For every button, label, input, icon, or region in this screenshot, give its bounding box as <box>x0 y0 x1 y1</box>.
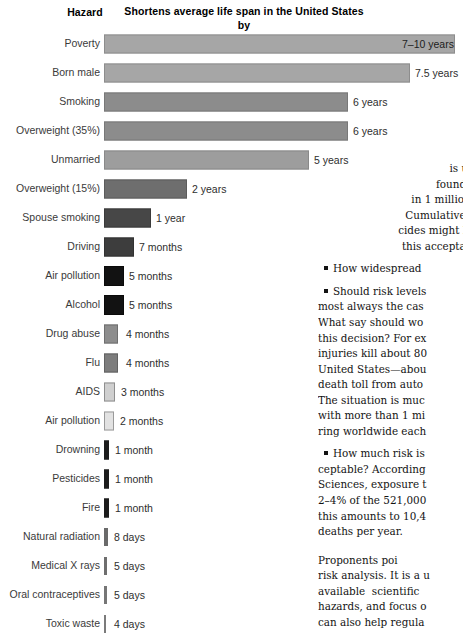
body-text-line: cides might kill 40, c <box>318 223 463 239</box>
body-text-line: is usually c <box>318 161 463 177</box>
bar <box>104 180 187 199</box>
value-label: 7 months <box>139 241 182 253</box>
bar <box>104 528 108 546</box>
value-label: 1 month <box>115 502 153 514</box>
bar <box>104 266 124 286</box>
body-text-line: can also help regula <box>318 615 463 631</box>
category-label: Air pollution <box>0 415 104 427</box>
bar-track: 7.5 years <box>104 62 463 84</box>
body-text-line: should <box>318 146 463 162</box>
bar <box>104 586 107 604</box>
value-label: 4 months <box>126 328 169 340</box>
bar <box>104 209 151 228</box>
category-label: Smoking <box>0 96 104 108</box>
value-label: 7–10 years <box>402 38 454 50</box>
bar <box>104 615 106 633</box>
bar <box>104 557 107 575</box>
category-label: Alcohol <box>0 299 104 311</box>
body-text-line: risk analysis. It is a u <box>318 568 463 584</box>
bar <box>104 151 309 170</box>
category-label: Overweight (35%) <box>0 125 104 137</box>
category-label: Poverty <box>0 38 104 50</box>
category-label: Spouse smoking <box>0 212 104 224</box>
body-text-line: this decision? For ex <box>318 331 463 347</box>
category-label: AIDS <box>0 386 104 398</box>
body-text-line: 2–4% of the 521,000 <box>318 493 463 509</box>
bar-track: 6 years <box>104 91 463 113</box>
category-label: Driving <box>0 241 104 253</box>
figure-page: Hazard Shortens average life span in the… <box>0 0 463 635</box>
bar-track: 7–10 years <box>104 33 463 55</box>
value-label: 8 days <box>114 531 145 543</box>
body-text-line: injuries kill about 80 <box>318 346 463 362</box>
category-label: Natural radiation <box>0 531 104 543</box>
value-label: 5 days <box>114 589 145 601</box>
body-text-bullet: How widespread <box>318 261 463 277</box>
value-label: 7.5 years <box>415 67 458 79</box>
category-label: Pesticides <box>0 473 104 485</box>
value-label: 4 days <box>114 618 145 630</box>
bar <box>104 354 118 373</box>
body-text-line: What say should wo <box>318 315 463 331</box>
value-label: 6 years <box>353 96 387 108</box>
body-text-line: hazards, and focus o <box>318 599 463 615</box>
body-text-line: most always the cas <box>318 299 463 315</box>
body-text-line: ceptable? According <box>318 462 463 478</box>
bar <box>104 295 124 315</box>
body-text-bullet: Should risk levels <box>318 284 463 300</box>
body-text-line: The situation is muc <box>318 393 463 409</box>
body-text-line: available scientific <box>318 584 463 600</box>
bar <box>104 499 109 518</box>
chart-row: Smoking6 years <box>0 91 463 113</box>
body-text-line: Sciences, exposure t <box>318 477 463 493</box>
body-text-line: Proponents poi <box>318 553 463 569</box>
body-text-line: death toll from auto <box>318 377 463 393</box>
bullet-square-icon <box>324 289 328 293</box>
category-label: Overweight (15%) <box>0 183 104 195</box>
bar <box>104 238 134 257</box>
body-text-line: United States—abou <box>318 362 463 378</box>
body-text-line: in 1 million from c <box>318 192 463 208</box>
bar <box>104 325 118 344</box>
body-text-line: ring worldwide each <box>318 424 463 440</box>
chart-row: Born male7.5 years <box>0 62 463 84</box>
bullet-square-icon <box>324 451 328 455</box>
value-label: 5 months <box>129 270 172 282</box>
value-label: 2 years <box>192 183 226 195</box>
value-label: 5 days <box>114 560 145 572</box>
value-label: 4 months <box>126 357 169 369</box>
body-text-bullet: How much risk is <box>318 446 463 462</box>
body-text-line: this amounts to 10,4 <box>318 509 463 525</box>
category-label: Oral contraceptives <box>0 589 104 601</box>
body-text-line: deaths per year. <box>318 524 463 540</box>
category-label: Drug abuse <box>0 328 104 340</box>
category-label: Toxic waste <box>0 618 104 630</box>
bullet-square-icon <box>324 266 328 270</box>
category-label: Fire <box>0 502 104 514</box>
category-label: Drowning <box>0 444 104 456</box>
category-label: Flu <box>0 357 104 369</box>
value-label: 5 months <box>129 299 172 311</box>
bar <box>104 93 348 112</box>
body-text-line: this acceptable, and <box>318 239 463 255</box>
category-label: Air pollution <box>0 270 104 282</box>
body-text-column: varshouldis usually cfound to havein 1 m… <box>318 130 463 635</box>
value-label: 1 year <box>156 212 185 224</box>
value-label: 2 months <box>120 415 163 427</box>
value-label: 3 months <box>121 386 164 398</box>
category-label: Born male <box>0 67 104 79</box>
value-label: 1 month <box>115 473 153 485</box>
body-text-line: found to have <box>318 177 463 193</box>
bar <box>104 383 115 402</box>
bar <box>104 412 114 431</box>
value-label: 1 month <box>115 444 153 456</box>
bar <box>104 122 348 141</box>
category-label: Medical X rays <box>0 560 104 572</box>
category-label: Unmarried <box>0 154 104 166</box>
bar <box>104 64 410 83</box>
body-text-line: Cumulatively, howe <box>318 208 463 224</box>
bar <box>104 441 109 460</box>
body-text-line: with more than 1 mi <box>318 408 463 424</box>
bar <box>104 470 109 489</box>
body-text-line: var <box>318 130 463 146</box>
